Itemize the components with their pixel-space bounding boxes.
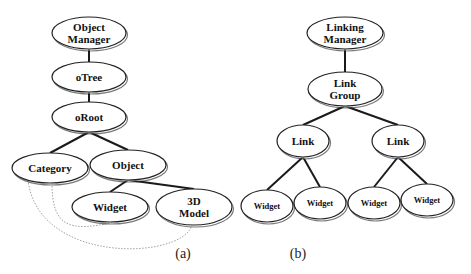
node-label: Object	[73, 21, 105, 33]
caption-a: (a)	[175, 246, 191, 262]
node-label: Group	[330, 89, 361, 101]
node-label: Widget	[361, 198, 387, 208]
node-widget-4: Widget	[401, 184, 455, 218]
node-label: Link	[292, 135, 316, 147]
edge-link-right-to-widget-3	[374, 157, 398, 187]
node-otree: oTree	[52, 62, 128, 94]
node-label: Widget	[93, 201, 127, 213]
node-label: Widget	[414, 195, 440, 205]
node-label: oRoot	[75, 111, 103, 123]
edge-link-group-to-link-right	[345, 106, 398, 125]
node-widget-3: Widget	[348, 187, 402, 221]
diagram-canvas: ObjectManageroTreeoRootCategoryObjectWid…	[0, 0, 471, 274]
node-label: Link	[334, 77, 358, 89]
node-label: Link	[387, 135, 411, 147]
caption-b: (b)	[290, 246, 307, 262]
node-label: Widget	[307, 198, 333, 208]
edge-link-left-to-widget-2	[303, 157, 320, 187]
edge-link-right-to-widget-4	[398, 157, 427, 184]
node-label: Manager	[324, 33, 367, 45]
node-widget: Widget	[72, 192, 150, 224]
node-label: Model	[179, 207, 209, 219]
node-oroot: oRoot	[52, 102, 128, 134]
node-widget-2: Widget	[294, 187, 348, 221]
node-link-group: LinkGroup	[308, 72, 384, 108]
node-object: Object	[90, 150, 168, 182]
node-label: 3D	[187, 195, 201, 207]
edge-oroot-to-category	[50, 132, 89, 153]
node-label: oTree	[76, 71, 103, 83]
node-link-left: Link	[277, 125, 331, 159]
edge-oroot-to-object	[89, 132, 128, 150]
node-category: Category	[12, 153, 90, 185]
node-linking-manager: LinkingManager	[307, 17, 385, 51]
node-model3d: 3DModel	[156, 189, 234, 227]
edge-link-left-to-widget-1	[267, 157, 303, 190]
node-label: Manager	[68, 33, 111, 45]
node-object-manager: ObjectManager	[52, 17, 128, 51]
node-label: Object	[112, 159, 144, 171]
node-link-right: Link	[372, 125, 426, 159]
node-label: Widget	[254, 201, 280, 211]
node-label: Linking	[326, 21, 364, 33]
node-label: Category	[28, 162, 72, 174]
edge-link-group-to-link-left	[303, 106, 345, 125]
node-widget-1: Widget	[241, 190, 295, 224]
